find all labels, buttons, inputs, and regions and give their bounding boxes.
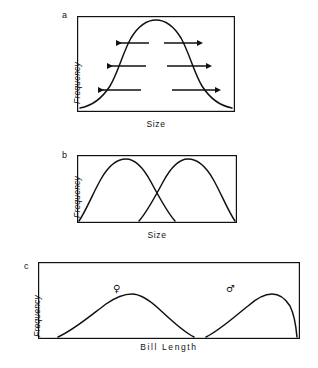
panel-c-curve-female: [58, 294, 194, 337]
panel-b-plot: [77, 155, 237, 223]
panel-a: a Frequency Si: [0, 0, 318, 140]
male-symbol: ♂: [226, 284, 235, 294]
panel-c-curve-male: [206, 294, 297, 337]
panel-a-plot: [77, 16, 235, 112]
figure-root: a Frequency Si: [0, 0, 318, 368]
panel-b: b Frequency Size: [0, 140, 318, 255]
panel-c: c Frequency ♀ ♂ Bill Length: [0, 255, 318, 368]
panel-c-label: c: [24, 262, 29, 271]
panel-c-xlabel: Bill Length: [38, 343, 300, 352]
panel-a-xlabel: Size: [77, 120, 235, 129]
female-symbol: ♀: [113, 284, 120, 294]
panel-a-label: a: [62, 11, 67, 20]
panel-a-curve: [80, 20, 232, 108]
panel-b-xlabel: Size: [77, 231, 237, 240]
panel-c-frame: [39, 263, 300, 339]
panel-b-frame: [78, 156, 237, 223]
panel-b-label: b: [62, 151, 67, 160]
panel-c-plot: [38, 262, 300, 339]
panel-b-curve-morph-1: [79, 159, 175, 221]
panel-b-curve-morph-2: [139, 159, 235, 221]
